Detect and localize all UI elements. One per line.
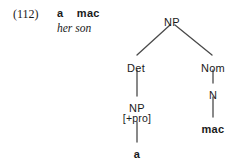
tree-branch-lines <box>0 0 248 164</box>
tree-node-det: Det <box>127 63 145 74</box>
tree-node-terminal-mac: mac <box>201 124 224 135</box>
tree-node-np-root: NP <box>164 17 180 28</box>
tree-node-terminal-a: a <box>134 149 141 160</box>
tree-edge-np-root-to-det <box>137 25 170 55</box>
tree-node-n: N <box>209 90 217 101</box>
syntax-tree-figure: (112) a mac her son NPDetNomNP[+pro]Nama… <box>0 0 248 164</box>
tree-edge-np-root-to-nom <box>175 25 212 55</box>
tree-node-nom: Nom <box>201 63 225 74</box>
tree-node-pro-feature: [+pro] <box>123 113 151 124</box>
